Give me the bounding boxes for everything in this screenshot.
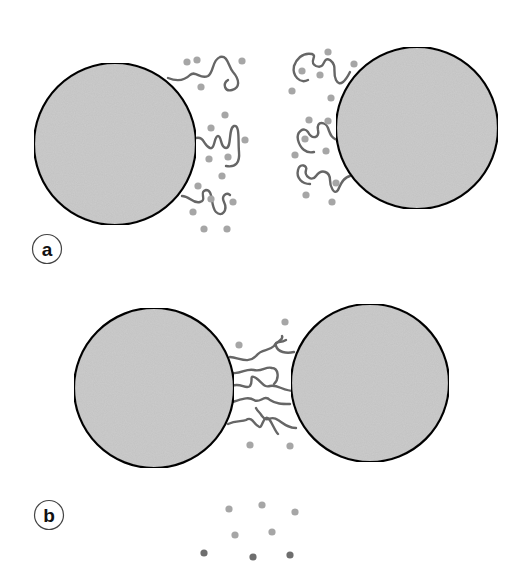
polymer-chains-overlap-b <box>228 336 296 434</box>
figure-canvas: a <box>0 0 529 572</box>
colloid-particle-right-b <box>291 304 449 462</box>
panel-label-a: a <box>33 235 62 264</box>
panel-a: a <box>33 47 499 264</box>
colloid-particle-left-b <box>74 308 234 468</box>
panel-b: b <box>35 304 450 561</box>
label-text-a: a <box>42 239 53 260</box>
label-text-b: b <box>43 505 55 526</box>
colloid-particle-left-a <box>34 63 196 225</box>
expelled-solvent-molecules-b <box>200 501 298 560</box>
colloid-particle-right-a <box>336 47 498 209</box>
panel-label-b: b <box>35 501 64 530</box>
